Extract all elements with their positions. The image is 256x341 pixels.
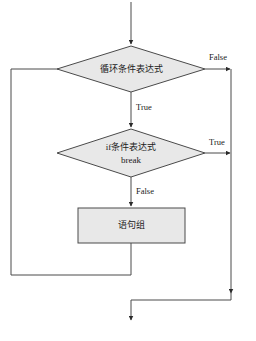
flowchart-svg: 循环条件表达式 if条件表达式 break 语句组 False True Tru… (0, 0, 256, 341)
decision-loop-condition-label: 循环条件表达式 (100, 63, 163, 74)
flowchart-canvas: 循环条件表达式 if条件表达式 break 语句组 False True Tru… (0, 0, 256, 341)
decision-if-condition-label-line1: if条件表达式 (106, 141, 157, 152)
edge-label-loop-true: True (136, 102, 152, 112)
decision-if-condition[interactable] (57, 129, 205, 177)
connector-exit (131, 293, 231, 320)
decision-if-condition-label-line2: break (121, 155, 141, 165)
process-statement-group-label: 语句组 (118, 219, 145, 230)
edge-label-if-false: False (136, 186, 154, 196)
edge-label-loop-false: False (209, 52, 227, 62)
edge-label-if-true: True (209, 137, 225, 147)
